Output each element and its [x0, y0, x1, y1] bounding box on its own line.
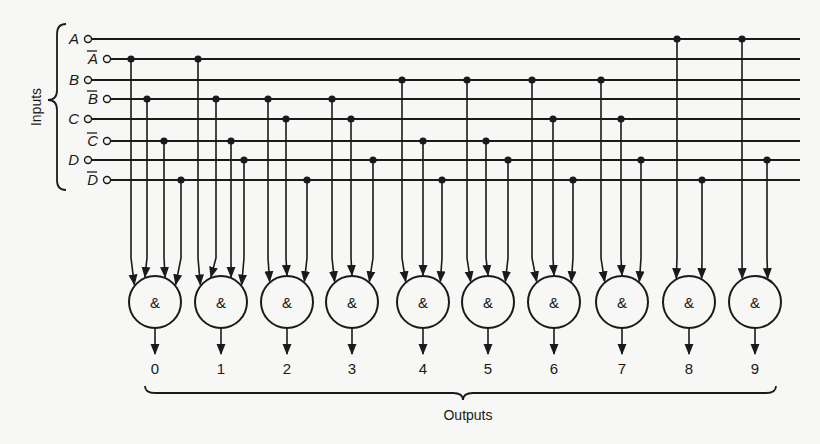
and-symbol: & [750, 294, 760, 311]
gate-input-wire [164, 141, 165, 277]
input-line-Cbar: C [87, 132, 800, 149]
and-symbol: & [483, 294, 493, 311]
and-symbol: & [549, 294, 559, 311]
input-terminal [104, 138, 111, 145]
input-terminal [104, 96, 111, 103]
gate-input-wire [242, 160, 244, 285]
input-terminal [85, 116, 92, 123]
input-line-D: D [68, 151, 800, 168]
input-label-D: D [68, 151, 79, 168]
and-gate-9: &9 [729, 35, 781, 377]
gate-input-wire [198, 59, 200, 285]
output-label-1: 1 [217, 360, 225, 377]
and-symbol: & [150, 294, 160, 311]
gate-input-wire [676, 39, 677, 278]
gate-input-wire [286, 119, 287, 275]
input-terminal [104, 177, 111, 184]
gate-input-wire [571, 180, 573, 281]
and-symbol: & [418, 294, 428, 311]
inputs-brace [48, 24, 66, 190]
input-label-B: B [69, 71, 79, 88]
outputs-brace [145, 386, 776, 400]
and-gates: &0&1&2&3&4&5&6&7&8&9 [127, 35, 781, 377]
output-label-7: 7 [618, 360, 626, 377]
gate-input-wire [131, 59, 134, 285]
input-terminal [104, 56, 111, 63]
input-line-B: B [69, 71, 800, 88]
and-gate-1: &1 [194, 55, 247, 377]
and-gate-8: &8 [663, 35, 715, 377]
input-label-Cbar: C [87, 132, 98, 149]
input-lines: AABBCCDD [68, 30, 800, 188]
gate-input-wire [553, 119, 554, 275]
input-label-Dbar: D [87, 171, 98, 188]
input-label-A: A [68, 30, 79, 47]
input-line-C: C [68, 110, 800, 127]
inputs-label: Inputs [28, 88, 44, 126]
gate-input-wire [332, 99, 335, 281]
and-gate-5: &5 [462, 76, 514, 377]
gate-input-wire [304, 180, 307, 281]
gate-input-wire [351, 119, 352, 275]
and-symbol: & [617, 294, 627, 311]
and-gate-3: &3 [326, 95, 378, 377]
input-label-Abar: A [87, 50, 98, 67]
and-gate-6: &6 [528, 76, 580, 377]
input-label-C: C [68, 110, 79, 127]
gate-input-wire [767, 160, 768, 278]
input-label-Bbar: B [88, 90, 98, 107]
gate-input-wire [639, 160, 641, 281]
output-label-8: 8 [685, 360, 693, 377]
gate-input-wire [268, 99, 270, 281]
gate-input-wire [369, 160, 373, 281]
input-terminal [85, 36, 92, 43]
gate-input-wire [176, 180, 181, 285]
and-symbol: & [347, 294, 357, 311]
output-label-3: 3 [348, 360, 356, 377]
and-gate-2: &2 [261, 95, 313, 377]
output-label-5: 5 [484, 360, 492, 377]
input-line-Bbar: B [87, 90, 800, 107]
output-label-2: 2 [283, 360, 291, 377]
output-label-0: 0 [151, 360, 159, 377]
gate-input-wire [440, 180, 442, 281]
and-symbol: & [684, 294, 694, 311]
output-label-9: 9 [751, 360, 759, 377]
and-gate-4: &4 [397, 76, 449, 377]
outputs-label: Outputs [443, 407, 492, 423]
input-terminal [85, 77, 92, 84]
gate-input-wire [211, 99, 216, 277]
input-line-Abar: A [87, 50, 800, 67]
input-terminal [85, 157, 92, 164]
and-gate-7: &7 [596, 76, 648, 377]
output-label-4: 4 [419, 360, 427, 377]
decoder-diagram: Inputs AABBCCDD &0&1&2&3&4&5&6&7&8&9 Out… [0, 0, 820, 444]
inputs-brace-group: Inputs [28, 24, 66, 190]
and-symbol: & [282, 294, 292, 311]
gate-input-wire [505, 160, 508, 281]
and-gate-0: &0 [127, 55, 184, 377]
input-line-A: A [68, 30, 800, 47]
gate-input-wire [486, 141, 488, 275]
and-symbol: & [216, 294, 226, 311]
outputs-brace-group: Outputs [145, 386, 776, 423]
gate-input-wire [145, 99, 147, 277]
output-label-6: 6 [550, 360, 558, 377]
gate-input-wire [621, 119, 622, 275]
